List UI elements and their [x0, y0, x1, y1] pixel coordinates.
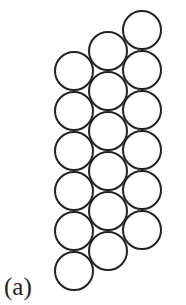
- circle: [89, 72, 127, 110]
- circle: [123, 11, 161, 49]
- circle: [89, 32, 127, 70]
- circle: [55, 252, 93, 290]
- circle: [89, 192, 127, 230]
- circle: [89, 112, 127, 150]
- circle: [55, 172, 93, 210]
- circle: [55, 132, 93, 170]
- circle: [123, 51, 161, 89]
- circle: [123, 91, 161, 129]
- circle-packing-diagram: [0, 0, 186, 305]
- circle: [55, 92, 93, 130]
- circle: [123, 131, 161, 169]
- circle: [123, 211, 161, 249]
- circle: [89, 232, 127, 270]
- figure-label: (a): [4, 273, 32, 301]
- circle: [123, 171, 161, 209]
- circle: [55, 52, 93, 90]
- circle: [89, 152, 127, 190]
- circle: [55, 212, 93, 250]
